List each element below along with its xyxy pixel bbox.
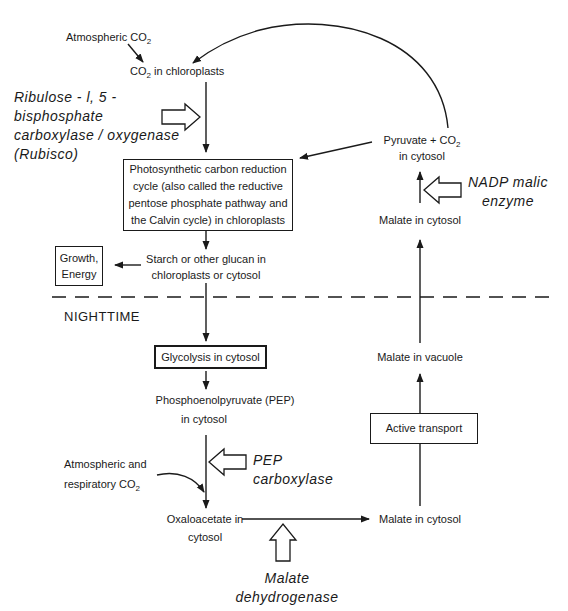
- enzyme-pep-carboxylase: PEP carboxylase: [253, 451, 333, 489]
- box-glycolysis: Glycolysis in cytosol: [154, 345, 267, 369]
- node-malate-vacuole: Malate in vacuole: [365, 349, 475, 365]
- node-atm-resp-co2: Atmospheric and respiratory CO2: [64, 454, 147, 494]
- arrow-atm-to-chloroplast: [128, 44, 143, 62]
- node-atmospheric-co2: Atmospheric CO2: [66, 29, 151, 45]
- box-calvin-cycle: Photosynthetic carbon reduction cycle (a…: [123, 159, 293, 231]
- node-pep: Phosphoenolpyruvate (PEP) in cytosol: [150, 392, 300, 427]
- node-oxaloacetate: Oxaloacetate in cytosol: [150, 510, 260, 546]
- node-co2-in-chloroplasts: CO2 in chloroplasts: [130, 63, 224, 79]
- arrow-recycle-co2: [193, 24, 448, 128]
- node-malate-cytosol-top: Malate in cytosol: [370, 212, 470, 228]
- box-growth-energy: Growth, Energy: [55, 246, 103, 286]
- enzyme-malate-dehydrogenase: Malate dehydrogenase: [232, 569, 342, 607]
- node-pyruvate-co2: Pyruvate + CO2 in cytosol: [372, 132, 472, 164]
- arrow-resp-co2: [157, 474, 204, 492]
- enzyme-nadp-malic: NADP malic enzyme: [468, 173, 548, 211]
- hollow-arrow-nadp-icon: [424, 177, 461, 203]
- enzyme-rubisco: Ribulose - l, 5 - bisphosphate carboxyla…: [14, 88, 180, 164]
- hollow-arrow-mdh-icon: [270, 524, 296, 561]
- nighttime-label: NIGHTTIME: [64, 309, 140, 324]
- arrow-pyruvate-to-calvin: [300, 142, 372, 158]
- hollow-arrow-pepc-icon: [209, 449, 246, 475]
- node-starch: Starch or other glucan in chloroplasts o…: [140, 251, 272, 283]
- node-malate-cytosol-bottom: Malate in cytosol: [370, 511, 470, 527]
- box-active-transport: Active transport: [370, 413, 478, 444]
